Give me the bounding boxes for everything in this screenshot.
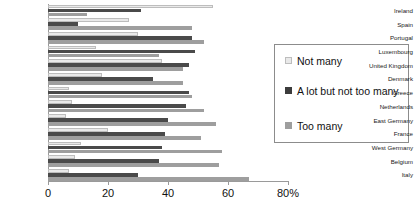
chart-row: France bbox=[0, 127, 417, 141]
bar-too-many bbox=[48, 163, 219, 167]
bar-group bbox=[48, 168, 417, 182]
chart-row: Luxembourg bbox=[0, 45, 417, 59]
bar-too-many bbox=[48, 122, 216, 126]
chart-row: Netherlands bbox=[0, 100, 417, 114]
bar-too-many bbox=[48, 26, 192, 30]
chart-row: United Kingdom bbox=[0, 59, 417, 73]
chart-row: West Germany bbox=[0, 141, 417, 155]
bar-group bbox=[48, 127, 417, 141]
bar-too-many bbox=[48, 150, 222, 154]
chart-row: East Germany bbox=[0, 114, 417, 128]
chart-row: Denmark bbox=[0, 72, 417, 86]
bar-too-many bbox=[48, 54, 159, 58]
chart-row: Greece bbox=[0, 86, 417, 100]
x-axis-tick-label: 40 bbox=[162, 187, 174, 199]
chart-row: Italy bbox=[0, 168, 417, 182]
x-axis-tick-label: 20 bbox=[102, 187, 114, 199]
bar-group bbox=[48, 59, 417, 73]
bar-too-many bbox=[48, 40, 204, 44]
bar-too-many bbox=[48, 95, 192, 99]
chart-row: Belgium bbox=[0, 155, 417, 169]
bar-too-many bbox=[48, 109, 204, 113]
bar-group bbox=[48, 155, 417, 169]
bar-group bbox=[48, 114, 417, 128]
bar-group bbox=[48, 100, 417, 114]
bar-group bbox=[48, 31, 417, 45]
bar-group bbox=[48, 141, 417, 155]
bar-too-many bbox=[48, 81, 183, 85]
bar-too-many bbox=[48, 136, 201, 140]
bar-too-many bbox=[48, 177, 249, 181]
chart-row: Portugal bbox=[0, 31, 417, 45]
bar-too-many bbox=[48, 13, 87, 17]
x-axis-tick-label: 80% bbox=[277, 187, 299, 199]
chart-row: Ireland bbox=[0, 4, 417, 18]
bar-group bbox=[48, 18, 417, 32]
bar-group bbox=[48, 45, 417, 59]
bar-group bbox=[48, 86, 417, 100]
x-axis-tick-label: 0 bbox=[45, 187, 51, 199]
bar-chart: 020406080% Not many A lot but not too ma… bbox=[0, 0, 417, 212]
bar-too-many bbox=[48, 67, 183, 71]
chart-row: Spain bbox=[0, 18, 417, 32]
bar-group bbox=[48, 4, 417, 18]
x-axis-tick-label: 60 bbox=[222, 187, 234, 199]
bar-group bbox=[48, 72, 417, 86]
